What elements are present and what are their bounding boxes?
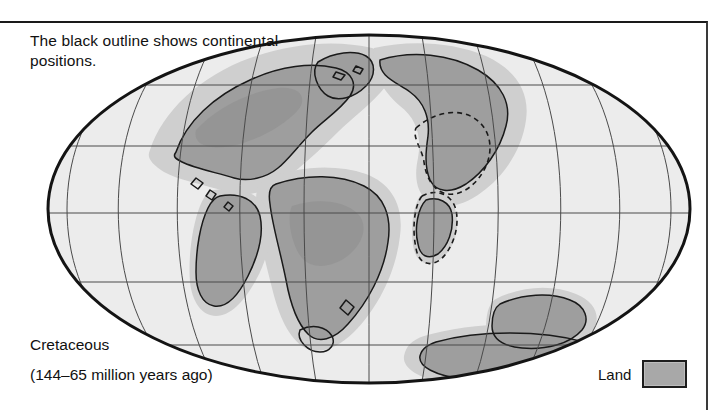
map-legend: Land: [598, 360, 687, 388]
era-date-range: (144–65 million years ago): [30, 366, 213, 384]
legend-swatch-land: [642, 360, 687, 388]
era-name: Cretaceous: [30, 336, 109, 354]
legend-label-land: Land: [598, 366, 631, 383]
figure-root: The black outline shows continental posi…: [0, 0, 714, 410]
map-note: The black outline shows continental posi…: [30, 31, 290, 71]
